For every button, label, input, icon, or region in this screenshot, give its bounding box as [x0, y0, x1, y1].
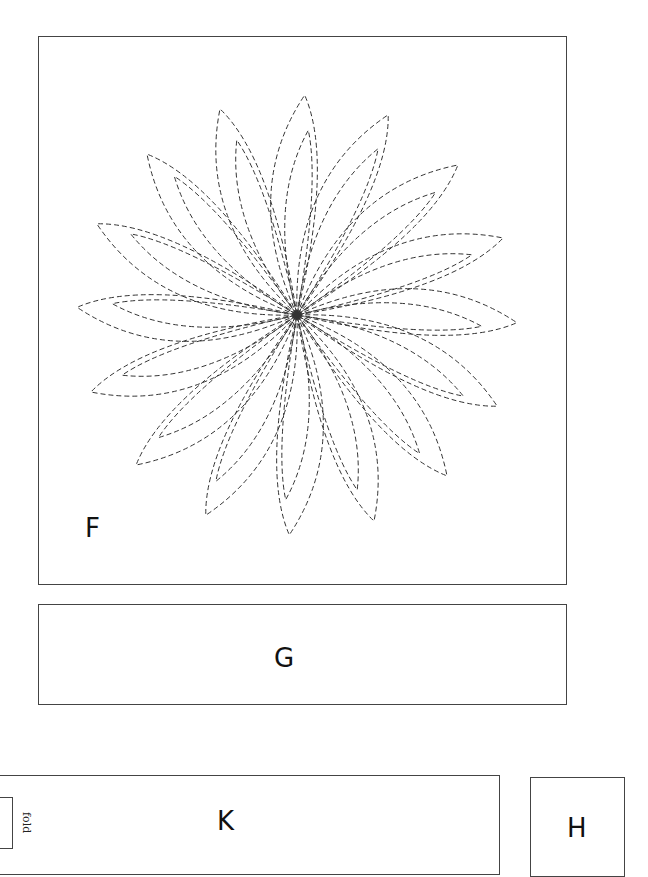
fold-label: fold: [20, 812, 33, 833]
piece-label-h: H: [567, 815, 587, 841]
piece-label-g: G: [274, 645, 294, 671]
fold-marker-box: [0, 797, 13, 849]
template-piece-g: [38, 604, 567, 705]
template-piece-k: [0, 775, 500, 875]
piece-label-k: K: [217, 808, 234, 834]
template-piece-f: [38, 36, 567, 585]
piece-label-f: F: [85, 515, 100, 541]
